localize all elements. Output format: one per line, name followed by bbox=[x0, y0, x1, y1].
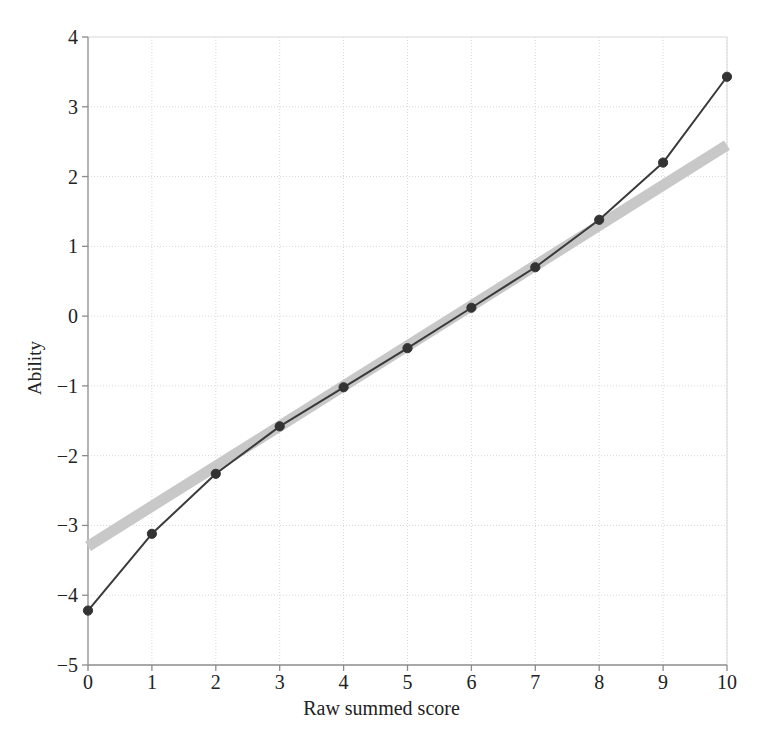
data-point-marker bbox=[595, 215, 604, 224]
x-tick-label: 10 bbox=[717, 672, 737, 692]
x-tick-label: 1 bbox=[147, 672, 157, 692]
data-point-marker bbox=[339, 383, 348, 392]
x-tick-label: 9 bbox=[658, 672, 668, 692]
x-tick-label: 7 bbox=[530, 672, 540, 692]
y-tick-label: 3 bbox=[30, 97, 78, 117]
y-tick-label: 4 bbox=[30, 27, 78, 47]
x-tick-label: 3 bbox=[275, 672, 285, 692]
y-axis-title: Ability bbox=[24, 341, 46, 395]
y-tick-label: −4 bbox=[30, 585, 78, 605]
x-tick-label: 8 bbox=[594, 672, 604, 692]
data-point-marker bbox=[403, 344, 412, 353]
data-point-marker bbox=[467, 303, 476, 312]
x-tick-label: 6 bbox=[466, 672, 476, 692]
data-point-marker bbox=[275, 422, 284, 431]
x-tick-label: 5 bbox=[403, 672, 413, 692]
x-tick-label: 4 bbox=[339, 672, 349, 692]
ability-data-markers bbox=[83, 72, 731, 615]
y-tick-label: −2 bbox=[30, 446, 78, 466]
data-point-marker bbox=[211, 469, 220, 478]
y-tick-label: 1 bbox=[30, 236, 78, 256]
x-axis-title: Raw summed score bbox=[0, 697, 763, 720]
x-tick-label: 2 bbox=[211, 672, 221, 692]
y-tick-label: 0 bbox=[30, 306, 78, 326]
y-tick-label: −5 bbox=[30, 655, 78, 675]
y-tick-label: 2 bbox=[30, 167, 78, 187]
plot-canvas bbox=[0, 0, 763, 736]
chart-figure: 43210−1−2−3−4−5 012345678910 Ability Raw… bbox=[0, 0, 763, 736]
data-point-marker bbox=[147, 529, 156, 538]
data-point-marker bbox=[659, 158, 668, 167]
data-point-marker bbox=[531, 263, 540, 272]
y-tick-label: −3 bbox=[30, 515, 78, 535]
data-point-marker bbox=[722, 72, 731, 81]
x-tick-label: 0 bbox=[83, 672, 93, 692]
data-point-marker bbox=[83, 606, 92, 615]
